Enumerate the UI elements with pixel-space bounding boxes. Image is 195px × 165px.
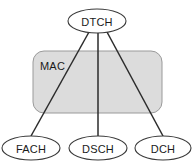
diagram-canvas: MAC DTCH FACH DSCH DCH (0, 0, 195, 165)
channel-mapping-diagram: MAC DTCH FACH DSCH DCH (0, 0, 195, 165)
mac-layer-label: MAC (40, 60, 65, 72)
node-label-dtch: DTCH (81, 16, 112, 28)
node-label-dch: DCH (151, 143, 175, 155)
node-label-fach: FACH (16, 143, 46, 155)
node-label-dsch: DSCH (82, 143, 114, 155)
